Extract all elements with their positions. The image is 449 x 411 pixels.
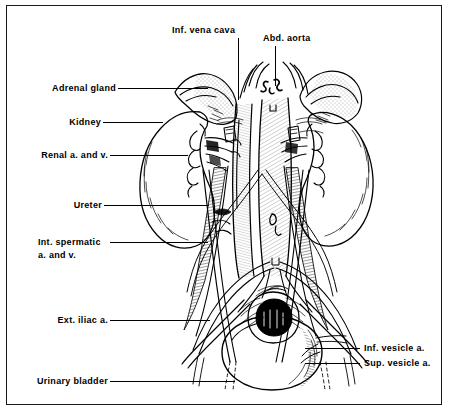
label-kidney: Kidney [48, 117, 101, 128]
figure-container: Inf. vena cava Abd. aorta Adrenal gland … [0, 0, 449, 411]
label-inf-vena-cava: Inf. vena cava [172, 25, 235, 36]
leader-renal-a-and-v [110, 155, 188, 156]
leader-urinary-bladder [110, 381, 235, 382]
label-inf-vesicle-a: Inf. vesicle a. [364, 343, 425, 354]
leader-abd-aorta [275, 46, 276, 86]
leader-adrenal-gland [118, 88, 208, 89]
label-abd-aorta: Abd. aorta [263, 33, 311, 44]
label-int-spermatic-line2: a. and v. [38, 250, 101, 261]
label-ureter: Ureter [58, 200, 102, 211]
leader-ureter [104, 205, 209, 206]
leader-ext-iliac-a [110, 320, 210, 321]
leader-sup-vesicle-a [305, 363, 360, 364]
label-int-spermatic: Int. spermatic a. and v. [38, 237, 101, 261]
leader-inf-vena-cava [238, 38, 239, 100]
label-renal-a-and-v: Renal a. and v. [33, 150, 108, 161]
label-urinary-bladder: Urinary bladder [33, 376, 108, 387]
label-sup-vesicle-a: Sup. vesicle a. [364, 358, 431, 369]
label-int-spermatic-line1: Int. spermatic [38, 237, 101, 248]
leader-kidney [103, 122, 163, 123]
label-ext-iliac-a: Ext. iliac a. [43, 315, 108, 326]
leader-inf-vesicle-a [305, 348, 360, 349]
label-adrenal-gland: Adrenal gland [48, 83, 116, 94]
leader-int-spermatic [110, 242, 208, 243]
